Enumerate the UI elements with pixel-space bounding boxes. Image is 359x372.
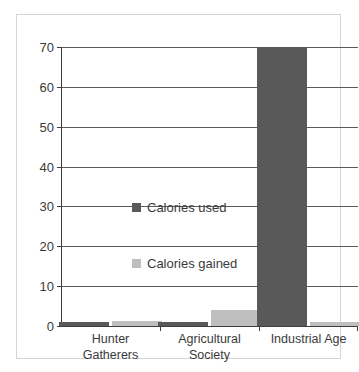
- legend-label-calories-used: Calories used: [147, 201, 227, 214]
- y-tick-label: 10: [40, 280, 54, 293]
- legend-swatch-calories-used: [132, 203, 141, 212]
- bar: [112, 321, 162, 326]
- legend-label-calories-gained: Calories gained: [147, 257, 237, 270]
- bars: [61, 47, 358, 326]
- x-category-label: AgriculturalSociety: [160, 331, 259, 363]
- x-category-label-line: Hunter: [61, 331, 160, 347]
- x-category-label-line: Gatherers: [61, 347, 160, 363]
- x-category-label: Industrial Age: [259, 331, 358, 347]
- y-tick-label: 70: [40, 41, 54, 54]
- x-category-label-line: Society: [160, 347, 259, 363]
- x-category-label: HunterGatherers: [61, 331, 160, 363]
- y-tick-label: 20: [40, 240, 54, 253]
- chart-frame: 010203040506070 Calories used Calories g…: [16, 14, 341, 359]
- legend-item-calories-gained: Calories gained: [132, 255, 262, 271]
- legend-item-calories-used: Calories used: [132, 199, 262, 215]
- y-tick-label: 50: [40, 120, 54, 133]
- plot-area: 010203040506070 Calories used Calories g…: [61, 47, 358, 326]
- bar: [59, 322, 109, 326]
- y-tick-label: 0: [47, 320, 54, 333]
- bar: [257, 47, 307, 326]
- chart-legend: Calories used Calories gained: [132, 199, 262, 271]
- bar: [310, 322, 359, 326]
- y-tick-label: 60: [40, 80, 54, 93]
- bar: [211, 310, 261, 326]
- x-category-label-line: Industrial Age: [259, 331, 358, 347]
- y-tick-label: 40: [40, 160, 54, 173]
- y-tick-label: 30: [40, 200, 54, 213]
- x-category-label-line: Agricultural: [160, 331, 259, 347]
- bar: [158, 322, 208, 326]
- legend-swatch-calories-gained: [132, 259, 141, 268]
- x-axis-category-labels: HunterGatherersAgriculturalSocietyIndust…: [61, 327, 358, 372]
- bar-chart: 010203040506070 Calories used Calories g…: [0, 0, 359, 372]
